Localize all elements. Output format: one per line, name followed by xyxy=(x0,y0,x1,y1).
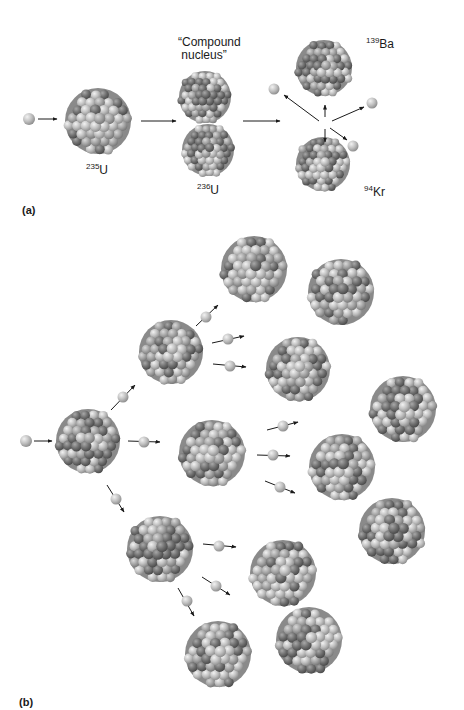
nucleon xyxy=(294,541,304,551)
nucleus-ba139 xyxy=(294,40,352,96)
nucleon xyxy=(338,458,349,469)
arrow-icon xyxy=(332,107,364,121)
compound-nucleus-label: “Compound nucleus” xyxy=(178,36,241,62)
neutron xyxy=(268,450,279,461)
nucleon xyxy=(59,449,69,459)
mass-number: 235 xyxy=(86,162,99,171)
panel-b-label: (b) xyxy=(19,696,33,708)
neutron-incoming xyxy=(23,113,35,125)
mass-number: 236 xyxy=(197,182,210,191)
nucleus-generation-3 xyxy=(219,236,287,303)
neutron xyxy=(201,312,212,323)
nucleus-generation-3 xyxy=(369,376,438,442)
nucleon xyxy=(250,260,261,271)
nucleon xyxy=(208,445,219,456)
nucleon xyxy=(298,171,306,179)
neutron xyxy=(223,334,234,345)
nucleon xyxy=(142,360,152,370)
nucleon xyxy=(167,343,178,354)
nucleon xyxy=(213,169,221,177)
neutron-released xyxy=(348,141,359,152)
nucleus-kr94 xyxy=(295,137,350,192)
nucleon xyxy=(205,143,214,152)
nucleon xyxy=(356,300,366,310)
neutron xyxy=(111,494,122,505)
u236-label: 236U xyxy=(197,184,219,197)
panel-a-label: (a) xyxy=(22,204,35,216)
nucleon xyxy=(84,432,95,443)
arrow-icon xyxy=(330,128,347,140)
nucleus-generation-3 xyxy=(184,621,252,687)
nucleon xyxy=(185,84,193,92)
nucleon xyxy=(220,131,228,139)
arrow-icon xyxy=(284,95,319,121)
nucleus-generation-2 xyxy=(178,420,246,487)
nucleon xyxy=(94,113,105,124)
nucleon xyxy=(333,260,343,270)
element-symbol: U xyxy=(99,163,108,177)
panel-b xyxy=(20,236,437,687)
neutron xyxy=(225,361,236,372)
compound-label-line2: nucleus” xyxy=(178,49,241,62)
element-symbol: Ba xyxy=(379,37,394,51)
mass-number: 94 xyxy=(364,184,373,193)
nucleon xyxy=(279,565,290,576)
nucleon xyxy=(294,361,305,372)
nucleon xyxy=(309,41,317,49)
kr94-label: 94Kr xyxy=(364,186,385,199)
nucleon xyxy=(306,632,317,643)
neutron xyxy=(278,421,289,432)
neutron xyxy=(118,392,129,403)
nucleon xyxy=(103,145,113,155)
neutron xyxy=(211,581,222,592)
neutron xyxy=(139,437,150,448)
element-symbol: Kr xyxy=(373,185,385,199)
fission-diagram xyxy=(0,0,464,710)
nucleon xyxy=(321,60,331,70)
nucleon xyxy=(156,541,167,552)
nucleon xyxy=(201,90,210,99)
panel-a xyxy=(23,40,378,192)
nucleus-generation-3 xyxy=(275,607,343,674)
neutron xyxy=(182,596,193,607)
nucleon xyxy=(316,276,326,286)
nucleus-generation-2 xyxy=(126,516,193,582)
nucleus-generation-3 xyxy=(307,259,374,325)
neutron xyxy=(275,482,286,493)
nucleon xyxy=(320,157,329,166)
nucleus-generation-1 xyxy=(55,409,120,474)
neutron-released xyxy=(367,98,378,109)
mass-number: 139 xyxy=(366,36,379,45)
nucleus-u236-top-lobe xyxy=(177,71,231,124)
u235-label: 235U xyxy=(86,164,108,177)
nucleon xyxy=(388,523,399,534)
nucleus-generation-2 xyxy=(138,320,203,385)
ba139-label: 139Ba xyxy=(366,38,394,51)
nucleus-generation-3 xyxy=(265,337,331,402)
neutron xyxy=(214,541,225,552)
nucleus-u236-bottom-lobe xyxy=(181,124,235,177)
nucleus-generation-3 xyxy=(248,540,317,607)
nucleus-u235 xyxy=(64,88,132,155)
nucleon xyxy=(399,401,410,412)
nucleon xyxy=(215,646,226,657)
nucleon xyxy=(188,662,198,672)
element-symbol: U xyxy=(210,183,219,197)
neutron-incoming xyxy=(20,435,32,447)
nucleus-generation-3 xyxy=(308,434,376,500)
nucleus-generation-3 xyxy=(358,498,425,564)
nucleon xyxy=(337,283,348,294)
neutron-released xyxy=(269,84,280,95)
